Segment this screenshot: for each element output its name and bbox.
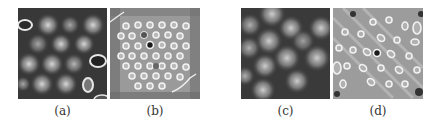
panel-a-label: (a) [18,104,107,118]
spot-pattern-a [18,8,107,99]
panel-d-image [333,8,423,99]
ring-pattern-d [333,8,423,99]
panel-a-image [18,8,107,99]
spot-pattern-c [241,8,330,99]
panel-c-label: (c) [241,104,330,118]
panel-c-image [241,8,330,99]
panel-b-image [110,8,200,99]
panel-d-label: (d) [333,104,423,118]
panel-b-label: (b) [110,104,200,118]
ring-pattern-b [110,8,200,99]
